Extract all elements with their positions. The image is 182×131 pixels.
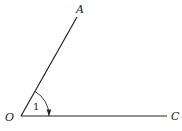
ray-oa	[21, 17, 77, 116]
arrowhead-icon	[47, 110, 52, 117]
angle-diagram: O A C 1	[0, 0, 182, 131]
point-label-a: A	[75, 3, 84, 16]
point-label-c: C	[171, 110, 180, 123]
angle-label-1: 1	[33, 101, 39, 112]
vertex-label-o: O	[5, 111, 14, 124]
